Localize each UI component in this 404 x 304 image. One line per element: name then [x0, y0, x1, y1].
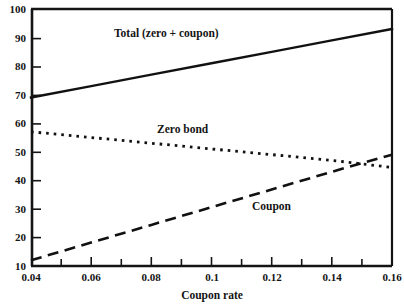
y-tick-label-90: 90	[0, 33, 26, 44]
x-tick-label-004: 0.04	[11, 272, 51, 283]
chart-figure: 100 90 80 70 60 50 40 30 20 10 0.04 0.06…	[0, 0, 404, 304]
x-tick-label-006: 0.06	[71, 272, 111, 283]
series-line-coupon	[31, 155, 392, 261]
series-label-zero-bond: Zero bond	[157, 123, 208, 135]
x-axis-ticks	[61, 257, 362, 265]
y-tick-label-30: 30	[0, 204, 26, 215]
y-tick-label-40: 40	[0, 175, 26, 186]
y-tick-label-50: 50	[0, 147, 26, 158]
y-tick-label-70: 70	[0, 90, 26, 101]
y-tick-label-80: 80	[0, 61, 26, 72]
y-tick-label-60: 60	[0, 118, 26, 129]
series-label-coupon: Coupon	[252, 200, 291, 212]
x-tick-label-016: 0.16	[372, 272, 404, 283]
x-tick-label-008: 0.08	[131, 272, 171, 283]
series-line-total	[31, 29, 392, 98]
y-tick-label-100: 100	[0, 4, 26, 15]
y-tick-label-20: 20	[0, 232, 26, 243]
x-tick-label-01: 0.1	[192, 272, 232, 283]
series-line-zero-bond	[31, 132, 392, 168]
y-axis-ticks	[33, 39, 41, 238]
series-label-total: Total (zero + coupon)	[114, 27, 219, 39]
x-tick-label-014: 0.14	[312, 272, 352, 283]
x-axis-title: Coupon rate	[152, 289, 272, 301]
chart-plot-area	[0, 0, 404, 304]
x-tick-label-012: 0.12	[252, 272, 292, 283]
